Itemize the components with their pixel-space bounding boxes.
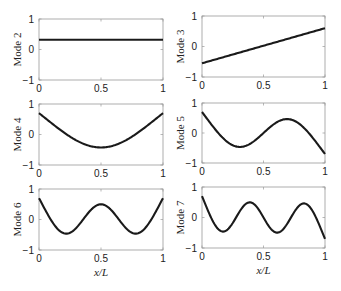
y-tick-label: 1 <box>191 11 197 22</box>
y-tick-label: −1 <box>186 158 198 169</box>
x-tick-label: 0.5 <box>94 253 108 264</box>
y-tick-label: −1 <box>23 160 35 171</box>
mode-curve <box>39 113 163 147</box>
y-tick-label: −1 <box>186 243 198 254</box>
panel-mode-4: 00.51−101Mode 4 <box>11 99 166 180</box>
x-tick-label: 0 <box>199 166 205 177</box>
x-tick-label: 0.5 <box>94 83 108 94</box>
x-tick-label: 0.5 <box>257 80 271 91</box>
panel-mode-2: 00.51−101Mode 2 <box>11 14 166 95</box>
mode-shapes-figure: 00.51−101Mode 200.51−101Mode 300.51−101M… <box>0 0 341 291</box>
x-axis-label: x/L <box>255 264 270 276</box>
x-tick-label: 1 <box>322 251 328 262</box>
y-tick-label: 1 <box>28 99 34 110</box>
mode-curve <box>202 28 325 63</box>
y-axis-label: Mode 3 <box>174 29 186 63</box>
panel-mode-3: 00.51−101Mode 3 <box>174 11 328 92</box>
x-tick-label: 0.5 <box>257 251 271 262</box>
x-tick-label: 0 <box>36 83 42 94</box>
y-tick-label: 0 <box>191 41 197 52</box>
y-tick-label: −1 <box>23 245 35 256</box>
y-tick-label: 1 <box>28 184 34 195</box>
x-axis-label: x/L <box>93 266 108 278</box>
y-axis-label: Mode 6 <box>11 202 23 236</box>
y-axis-label: Mode 4 <box>11 117 23 151</box>
y-tick-label: 1 <box>191 98 197 109</box>
mode-curve <box>39 198 163 233</box>
y-tick-label: 0 <box>28 129 34 140</box>
panel-mode-6: 00.51−101Mode 6x/L <box>11 184 166 279</box>
x-tick-label: 0 <box>36 168 42 179</box>
axes-box <box>39 189 163 250</box>
y-axis-label: Mode 7 <box>174 200 186 234</box>
y-tick-label: 0 <box>28 214 34 225</box>
panel-mode-5: 00.51−101Mode 5 <box>174 98 328 178</box>
y-axis-label: Mode 5 <box>174 116 186 150</box>
y-tick-label: −1 <box>186 72 198 83</box>
y-tick-label: 0 <box>191 128 197 139</box>
mode-curve <box>202 112 325 154</box>
y-tick-label: 1 <box>28 14 34 25</box>
y-tick-label: 1 <box>191 182 197 193</box>
y-tick-label: 0 <box>28 44 34 55</box>
y-tick-label: 0 <box>191 212 197 223</box>
y-axis-label: Mode 2 <box>11 33 23 67</box>
x-tick-label: 0 <box>199 80 205 91</box>
axes-box <box>39 104 163 165</box>
x-tick-label: 0 <box>199 251 205 262</box>
panel-mode-7: 00.51−101Mode 7x/L <box>174 182 328 277</box>
x-tick-label: 1 <box>160 253 166 264</box>
x-tick-label: 1 <box>160 83 166 94</box>
x-tick-label: 1 <box>322 80 328 91</box>
x-tick-label: 1 <box>160 168 166 179</box>
x-tick-label: 0 <box>36 253 42 264</box>
axes-box <box>39 19 163 80</box>
x-tick-label: 0.5 <box>94 168 108 179</box>
mode-curve <box>202 196 325 239</box>
x-tick-label: 0.5 <box>257 166 271 177</box>
y-tick-label: −1 <box>23 75 35 86</box>
x-tick-label: 1 <box>322 166 328 177</box>
